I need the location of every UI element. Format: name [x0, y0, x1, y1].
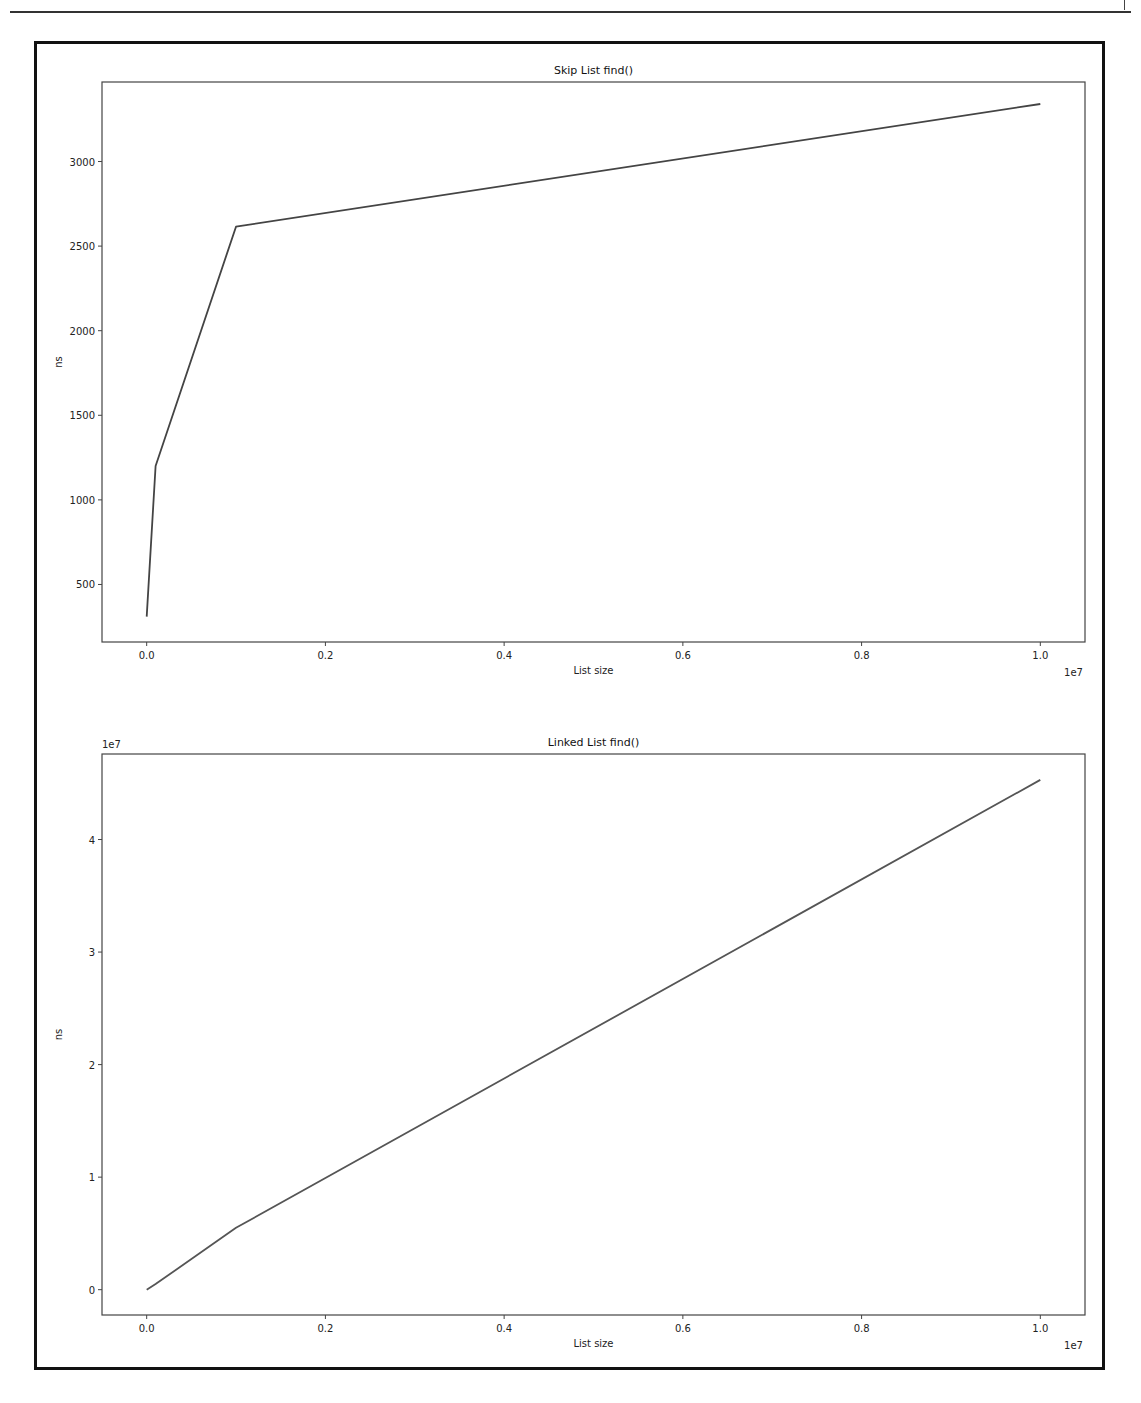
- x-tick-label: 0.8: [854, 1323, 870, 1334]
- data-line: [147, 780, 1041, 1290]
- y-tick-label: 2500: [70, 241, 95, 252]
- x-tick-label: 0.2: [317, 650, 333, 661]
- plot-area: [102, 754, 1085, 1315]
- x-tick-label: 1.0: [1032, 650, 1048, 661]
- x-tick-label: 0.0: [139, 1323, 155, 1334]
- x-tick-label: 0.8: [854, 650, 870, 661]
- y-tick-label: 1000: [70, 495, 95, 506]
- axis-ticks: 0.00.20.40.60.81.001234: [89, 835, 1049, 1334]
- x-axis-label: List size: [573, 665, 613, 676]
- x-tick-label: 0.6: [675, 650, 691, 661]
- y-axis-label: ns: [53, 356, 64, 368]
- x-axis-offset-label: 1e7: [1064, 1340, 1083, 1351]
- data-line: [147, 104, 1041, 617]
- plot-area: [102, 82, 1085, 642]
- chart-title: Skip List find(): [554, 64, 633, 77]
- y-axis-offset-label: 1e7: [102, 739, 121, 750]
- figure-canvas: Skip List find() List size ns 1e7 0.00.2…: [0, 0, 1141, 1403]
- x-tick-label: 0.0: [139, 650, 155, 661]
- x-tick-label: 0.6: [675, 1323, 691, 1334]
- x-tick-label: 0.2: [317, 1323, 333, 1334]
- x-axis-offset-label: 1e7: [1064, 667, 1083, 678]
- linked-list-chart: Linked List find() List size ns 1e7 1e7 …: [53, 736, 1085, 1351]
- y-tick-label: 4: [89, 835, 95, 846]
- chart-title: Linked List find(): [548, 736, 640, 749]
- y-tick-label: 1: [89, 1172, 95, 1183]
- y-tick-label: 1500: [70, 410, 95, 421]
- skip-list-chart: Skip List find() List size ns 1e7 0.00.2…: [53, 64, 1085, 678]
- x-tick-label: 0.4: [496, 1323, 512, 1334]
- y-tick-label: 500: [76, 579, 95, 590]
- x-axis-label: List size: [573, 1338, 613, 1349]
- x-tick-label: 1.0: [1032, 1323, 1048, 1334]
- y-tick-label: 0: [89, 1285, 95, 1296]
- y-axis-label: ns: [53, 1029, 64, 1041]
- y-tick-label: 3000: [70, 157, 95, 168]
- y-tick-label: 2000: [70, 326, 95, 337]
- y-tick-label: 3: [89, 947, 95, 958]
- axis-ticks: 0.00.20.40.60.81.05001000150020002500300…: [70, 157, 1049, 661]
- x-tick-label: 0.4: [496, 650, 512, 661]
- y-tick-label: 2: [89, 1060, 95, 1071]
